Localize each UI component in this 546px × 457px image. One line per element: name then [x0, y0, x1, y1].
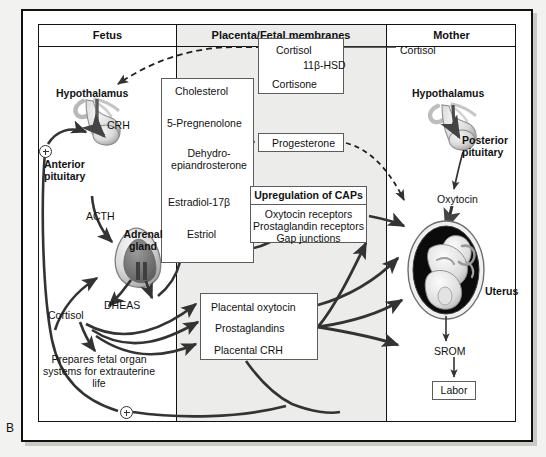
label-dheas: DHEAS	[104, 299, 140, 311]
label-fetal-hypothalamus: Hypothalamus	[56, 87, 128, 99]
label-acth: ACTH	[86, 210, 115, 222]
label-prostaglandins: Prostaglandins	[215, 322, 284, 334]
label-labor: Labor	[432, 384, 476, 396]
label-estriol: Estriol	[187, 228, 216, 240]
label-fetal-crh: CRH	[107, 119, 130, 131]
label-cortisone: Cortisone	[272, 78, 317, 90]
caps-box-divider	[251, 204, 366, 205]
label-adrenal-gland: Adrenal gland	[119, 228, 167, 252]
panel-letter: B	[6, 421, 14, 435]
label-uterus: Uterus	[485, 285, 518, 297]
positive-feedback-node-pituitary	[39, 145, 52, 158]
label-fetal-cortisol: Cortisol	[48, 309, 84, 321]
label-srom: SROM	[434, 345, 466, 357]
label-posterior-pituitary: Posterior pituitary	[462, 134, 522, 158]
label-cholesterol: Cholesterol	[175, 85, 228, 97]
label-maternal-oxytocin: Oxytocin	[437, 193, 478, 205]
label-maternal-cortisol: Cortisol	[400, 44, 436, 56]
label-placental-crh: Placental CRH	[214, 344, 283, 356]
column-header-mother: Mother	[386, 25, 517, 46]
label-prepares-fetal-organ-systems: Prepares fetal organ systems for extraut…	[42, 353, 156, 389]
column-header-fetus: Fetus	[39, 25, 176, 46]
label-maternal-hypothalamus: Hypothalamus	[412, 87, 484, 99]
label-11beta-hsd: 11β-HSD	[303, 59, 346, 71]
label-caps-items: Oxytocin receptors Prostaglandin recepto…	[250, 208, 367, 244]
label-anterior-pituitary: Anterior pituitary	[44, 158, 104, 182]
figure-canvas: B Fetus Placenta/Fetal membranes Mother	[0, 0, 546, 457]
label-placental-oxytocin: Placental oxytocin	[211, 301, 296, 313]
label-caps-title: Upregulation of CAPs	[250, 189, 367, 201]
label-5-pregnenolone: 5-Pregnenolone	[167, 117, 242, 129]
label-estradiol-17beta: Estradiol-17β	[168, 196, 230, 208]
label-dehydroepiandrosterone: Dehydro- epiandrosterone	[170, 147, 248, 171]
column-divider-2	[386, 25, 387, 421]
label-placental-cortisol: Cortisol	[276, 44, 312, 56]
positive-feedback-node-loop	[120, 406, 133, 419]
label-progesterone: Progesterone	[272, 137, 335, 149]
